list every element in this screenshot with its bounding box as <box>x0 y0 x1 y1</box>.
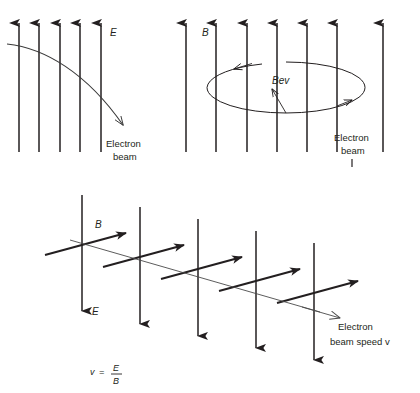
formula-equals: = <box>99 367 104 377</box>
figure-canvas: E Electron beam B Be <box>0 0 420 393</box>
orbit-direction-arrow-left <box>234 64 252 70</box>
orbit-ellipse <box>207 62 365 113</box>
magnetic-field-label: B <box>202 27 209 38</box>
panel-electric-field: E Electron beam <box>7 23 141 162</box>
magnetic-field-label: B <box>95 219 102 230</box>
force-leader-line <box>272 89 286 113</box>
electron-beam-label-line2: beam <box>113 151 137 162</box>
electron-beam-label-line1: Electron <box>106 138 141 149</box>
physics-figure: E Electron beam B Be <box>0 0 420 393</box>
panel-magnetic-field: B Bev Electron beam <box>186 23 383 167</box>
electron-beam-label-line1: Electron <box>338 321 373 332</box>
electron-beam-label-line2: beam speed v <box>330 336 390 347</box>
b-field-arrow <box>219 269 300 291</box>
formula-lhs: v <box>90 367 95 377</box>
b-field-diagonal-arrows <box>45 233 358 303</box>
magnetic-force-label: Bev <box>272 75 290 86</box>
panel-crossed-fields: B E Electron beam speed v v = E B <box>45 195 390 386</box>
beam-line <box>70 240 320 312</box>
electron-beam-straight-path <box>70 240 340 318</box>
beam-arrow-head <box>302 307 340 318</box>
b-field-arrow <box>103 245 184 267</box>
electric-field-label: E <box>110 27 117 38</box>
electron-beam-orbit <box>207 62 365 113</box>
formula-denominator: B <box>113 376 119 386</box>
velocity-selector-formula: v = E B <box>90 363 122 386</box>
orbit-ellipse-gap <box>250 64 262 66</box>
electron-beam-label-line2: beam <box>341 145 365 156</box>
e-field-lines <box>19 23 101 152</box>
electron-beam-label-line1: Electron <box>334 132 369 143</box>
electron-beam-curve <box>7 44 123 125</box>
e-field-down-arrows <box>82 195 314 360</box>
formula-numerator: E <box>113 363 120 373</box>
b-field-arrow <box>277 281 358 303</box>
b-field-arrow <box>161 257 242 279</box>
electric-field-label: E <box>92 306 99 317</box>
